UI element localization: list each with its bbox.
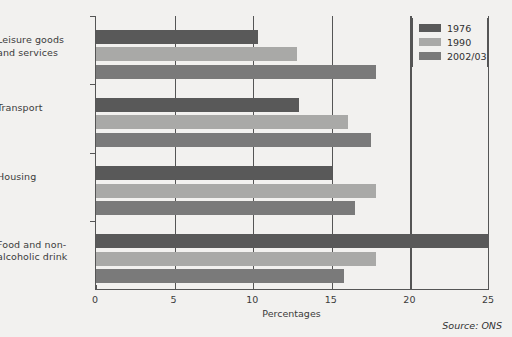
bar-1976-3 [96, 234, 489, 248]
bar-1976-0 [96, 30, 258, 44]
chart-legend: 1976 1990 2002/03 [412, 18, 488, 67]
category-tick [90, 221, 96, 222]
legend-swatch-icon [419, 24, 441, 32]
legend-item: 2002/03 [413, 49, 487, 63]
x-axis-tick-label: 0 [92, 294, 98, 305]
x-axis-tick [410, 285, 411, 290]
legend-item: 1976 [413, 21, 487, 35]
legend-label: 1976 [447, 23, 471, 34]
legend-label: 1990 [447, 37, 471, 48]
x-axis-tick [96, 285, 97, 290]
bar-1990-3 [96, 252, 376, 266]
chart-figure: Leisure goods and services Transport Hou… [0, 0, 512, 337]
bar-2002-03-1 [96, 133, 371, 147]
bar-2002-03-3 [96, 269, 344, 283]
bar-1990-1 [96, 115, 348, 129]
x-axis-tick-label: 20 [403, 294, 415, 305]
x-axis-tick-label: 10 [246, 294, 258, 305]
category-label: Food and non-alcoholic drink [0, 239, 85, 264]
category-label: Transport [0, 102, 85, 115]
source-note: Source: ONS [442, 320, 502, 331]
x-axis-tick-label: 15 [325, 294, 337, 305]
bar-2002-03-2 [96, 201, 355, 215]
bar-1976-2 [96, 166, 332, 180]
bar-2002-03-0 [96, 65, 376, 79]
legend-swatch-icon [419, 52, 441, 60]
x-axis-title: Percentages [95, 308, 488, 319]
legend-item: 1990 [413, 35, 487, 49]
x-axis-tick-label: 25 [482, 294, 494, 305]
x-axis-tick [175, 285, 176, 290]
x-axis-tick [488, 285, 489, 290]
category-tick [90, 153, 96, 154]
category-axis-labels: Leisure goods and services Transport Hou… [0, 14, 92, 290]
legend-label: 2002/03 [447, 51, 486, 62]
x-axis-tick [253, 285, 254, 290]
bar-1976-1 [96, 98, 299, 112]
x-axis-tick [332, 285, 333, 290]
category-tick [90, 84, 96, 85]
bar-1990-2 [96, 184, 376, 198]
category-tick [90, 16, 96, 17]
category-label: Leisure goods and services [0, 34, 85, 59]
x-axis-tick-label: 5 [171, 294, 177, 305]
legend-swatch-icon [419, 38, 441, 46]
category-label: Housing [0, 171, 85, 184]
bar-1990-0 [96, 47, 297, 61]
